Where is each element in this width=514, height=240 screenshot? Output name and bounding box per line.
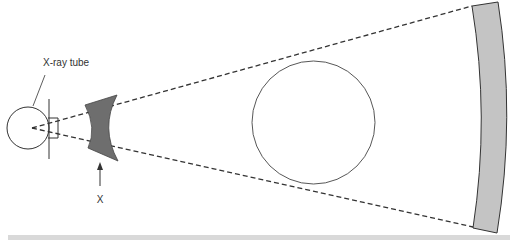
tube-label: X-ray tube xyxy=(43,57,90,68)
bow-tie-filter xyxy=(85,95,118,161)
x-ray-tube-icon xyxy=(7,107,49,149)
ct-geometry-diagram: X-ray tube X xyxy=(0,0,514,240)
filter-label: X xyxy=(97,194,104,205)
tube-leader-line xyxy=(33,75,45,106)
arrow-up-icon xyxy=(97,162,103,170)
object-circle xyxy=(252,61,375,184)
footer-band xyxy=(8,235,510,240)
detector-arc xyxy=(472,2,507,233)
